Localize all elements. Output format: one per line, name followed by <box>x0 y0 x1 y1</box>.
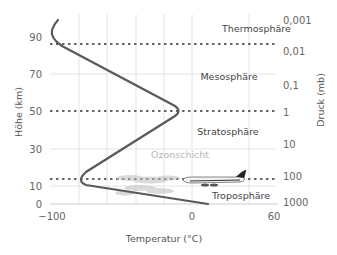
pressure-axis-ticks: 0,001 0,01 0,1 1 10 100 1000 <box>283 15 312 208</box>
label-stratosphere: Stratosphäre <box>197 126 259 137</box>
y-axis-label: Höhe (km) <box>13 87 24 137</box>
cloud-icon <box>115 175 180 196</box>
svg-text:0: 0 <box>189 211 195 222</box>
svg-text:10: 10 <box>283 139 296 150</box>
svg-text:0: 0 <box>36 199 42 210</box>
svg-text:70: 70 <box>29 69 42 80</box>
svg-text:1000: 1000 <box>283 197 308 208</box>
x-axis-label: Temperatur (°C) <box>125 233 202 244</box>
svg-text:1: 1 <box>283 107 289 118</box>
label-thermosphere: Thermosphäre <box>221 23 291 34</box>
svg-text:100: 100 <box>283 171 302 182</box>
atmosphere-diagram: Thermosphäre Mesosphäre Stratosphäre Ozo… <box>0 0 337 255</box>
svg-text:60: 60 <box>268 211 281 222</box>
svg-text:0,01: 0,01 <box>283 46 305 57</box>
svg-text:50: 50 <box>29 106 42 117</box>
label-troposphere: Troposphäre <box>211 190 270 201</box>
vertical-gridlines <box>79 14 249 204</box>
x-axis-ticks: −100 0 60 <box>38 211 280 222</box>
y-axis-ticks: 90 70 50 30 10 0 <box>29 32 42 210</box>
label-ozone-layer: Ozonschicht <box>151 149 209 160</box>
svg-text:0,001: 0,001 <box>283 15 312 26</box>
svg-text:30: 30 <box>29 144 42 155</box>
svg-text:90: 90 <box>29 32 42 43</box>
label-mesosphere: Mesosphäre <box>200 71 257 82</box>
svg-text:−100: −100 <box>38 211 65 222</box>
svg-text:10: 10 <box>29 181 42 192</box>
svg-text:0,1: 0,1 <box>283 80 299 91</box>
pressure-axis-label: Druck (mb) <box>315 73 326 127</box>
